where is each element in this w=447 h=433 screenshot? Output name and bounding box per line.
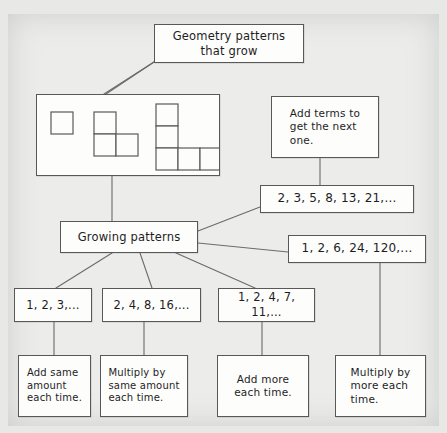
- node-title-label: Geometry patterns that grow: [170, 29, 289, 58]
- node-add-terms-label: Add terms to get the next one.: [287, 107, 363, 147]
- node-add-terms: Add terms to get the next one.: [271, 96, 379, 158]
- node-growing-patterns-label: Growing patterns: [75, 230, 184, 245]
- node-sequence-triangular: 1, 2, 4, 7, 11,...: [218, 288, 315, 322]
- edge-growing-to-seq3: [176, 253, 255, 288]
- node-rule-add-same: Add same amount each time.: [18, 355, 91, 417]
- node-sequence-doubling: 2, 4, 8, 16,...: [102, 288, 201, 322]
- edge-growing-to-fact: [198, 243, 288, 252]
- node-sequence-counting: 1, 2, 3,...: [14, 288, 92, 322]
- figure2-square-2: [94, 134, 116, 156]
- edge-growing-to-fib: [198, 207, 260, 231]
- figure3-square-2: [156, 126, 178, 148]
- node-title: Geometry patterns that grow: [154, 24, 304, 63]
- node-rule-add-more-label: Add more each time.: [231, 373, 295, 400]
- growing-squares-icon: [37, 95, 219, 175]
- node-rule-multiply-same-label: Multiply by same amount each time.: [105, 367, 182, 405]
- node-rule-add-more: Add more each time.: [217, 355, 309, 417]
- figure3-square-3: [156, 148, 178, 170]
- figure2-square-1: [94, 112, 116, 134]
- node-growing-patterns: Growing patterns: [60, 221, 198, 253]
- node-factorial-sequence: 1, 2, 6, 24, 120,...: [288, 235, 426, 263]
- node-fibonacci-label: 2, 3, 5, 8, 13, 21,...: [275, 191, 400, 206]
- figure2-square-3: [116, 134, 138, 156]
- figure3-square-1: [156, 104, 178, 126]
- edge-title-to-shapes-2: [106, 62, 154, 94]
- node-rule-multiply-same: Multiply by same amount each time.: [100, 355, 188, 417]
- edge-growing-to-seq2: [140, 253, 152, 288]
- node-sequence-triangular-label: 1, 2, 4, 7, 11,...: [219, 290, 314, 319]
- figure1-square-1: [51, 112, 73, 134]
- diagram-canvas: Geometry patterns that grow Add terms to…: [0, 0, 447, 433]
- node-rule-add-same-label: Add same amount each time.: [24, 367, 85, 405]
- node-shape-pattern: [36, 94, 220, 176]
- figure3-square-4: [178, 148, 200, 170]
- node-rule-multiply-more-label: Multiply by more each time.: [348, 366, 414, 406]
- node-fibonacci-sequence: 2, 3, 5, 8, 13, 21,...: [260, 185, 414, 213]
- edge-growing-to-seq1: [56, 253, 112, 288]
- figure3-square-5: [200, 148, 219, 170]
- node-sequence-counting-label: 1, 2, 3,...: [23, 298, 82, 313]
- node-rule-multiply-more: Multiply by more each time.: [335, 355, 426, 417]
- node-sequence-doubling-label: 2, 4, 8, 16,...: [110, 298, 192, 313]
- node-factorial-label: 1, 2, 6, 24, 120,...: [299, 241, 416, 256]
